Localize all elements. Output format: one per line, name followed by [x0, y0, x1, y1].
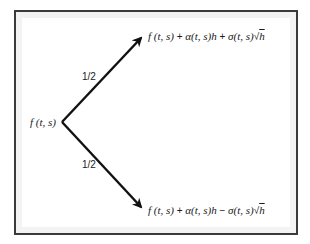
up-plus-sign: +: [177, 31, 183, 42]
down-drift-term: α(t, s)h: [185, 204, 216, 216]
root-node-label: f (t, s): [30, 116, 56, 128]
down-operator: −: [220, 205, 226, 216]
up-drift-term: α(t, s)h: [185, 30, 216, 42]
down-sqrt-arg: h: [259, 204, 265, 216]
up-branch-arrow: [62, 38, 141, 122]
down-f-term: f (t, s): [148, 204, 174, 216]
up-sqrt-arg: h: [259, 30, 265, 42]
down-probability-label: 1/2: [82, 159, 96, 171]
up-operator: +: [220, 31, 226, 42]
up-f-term: f (t, s): [148, 30, 174, 42]
down-vol-term: σ(t, s): [228, 204, 254, 216]
down-node-label: f (t, s) + α(t, s)h − σ(t, s)√h: [148, 204, 265, 217]
up-node-label: f (t, s) + α(t, s)h + σ(t, s)√h: [148, 30, 265, 43]
down-plus-sign: +: [177, 205, 183, 216]
up-vol-term: σ(t, s): [228, 30, 254, 42]
up-probability-label: 1/2: [82, 71, 96, 83]
down-branch-arrow: [62, 122, 141, 207]
